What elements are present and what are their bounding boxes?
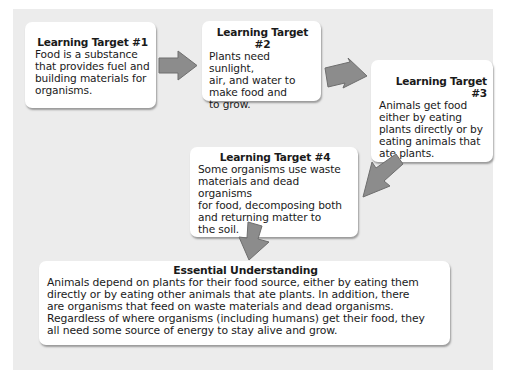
arrow-right-icon [158,50,198,81]
learning-target-3-box: Learning Target #3 Animals get food eith… [371,60,493,162]
essential-understanding-text: Animals depend on plants for their food … [47,277,444,337]
learning-target-2-title: Learning Target #2 [209,26,316,50]
learning-target-3-title: Learning Target #3 [379,75,489,99]
learning-target-1-box: Learning Target #1 Food is a substance t… [25,22,156,108]
learning-target-4-title: Learning Target #4 [198,151,352,163]
learning-target-4-box: Learning Target #4 Some organisms use wa… [190,147,358,237]
learning-target-3-text: Animals get food either by eating plants… [379,99,489,159]
learning-target-4-text: Some organisms use waste materials and d… [198,163,352,235]
arrow-down-right-icon [324,58,368,90]
essential-understanding-box: Essential Understanding Animals depend o… [39,261,450,345]
arrow-down-left-icon [362,154,404,198]
arrow-down-icon [238,221,272,261]
learning-target-1-title: Learning Target #1 [35,36,150,48]
learning-target-2-box: Learning Target #2 Plants need sunlight,… [202,21,321,101]
learning-target-2-text: Plants need sunlight, air, and water to … [209,50,316,110]
learning-target-1-text: Food is a substance that provides fuel a… [35,48,150,96]
